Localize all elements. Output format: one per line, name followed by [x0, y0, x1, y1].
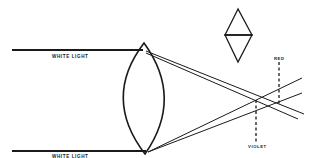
top-white-light-label: WHITE LIGHT: [52, 54, 88, 59]
bottom-white-light-label: WHITE LIGHT: [52, 154, 88, 158]
bottom-refracted-ray-violet: [148, 78, 302, 152]
red-label: RED: [274, 56, 285, 61]
convex-lens: [123, 43, 164, 154]
top-refracted-ray-red: [146, 53, 298, 119]
violet-label: VIOLET: [248, 144, 267, 149]
chromatic-aberration-diagram: WHITE LIGHT WHITE LIGHT RED VIOLET: [0, 0, 310, 158]
prism-pair-icon: [225, 9, 252, 62]
